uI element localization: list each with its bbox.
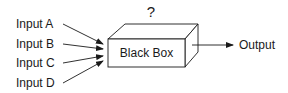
- input-a-label: Input A: [16, 17, 53, 31]
- input-c-arrow: [63, 56, 103, 63]
- input-b-label: Input B: [16, 37, 54, 51]
- input-b-arrow: [63, 44, 103, 49]
- input-a-arrow: [63, 24, 103, 44]
- black-box-diagram: Input A Input B Input C Input D Black Bo…: [0, 0, 288, 93]
- box-label: Black Box: [120, 46, 173, 60]
- input-d-arrow: [63, 61, 103, 83]
- box-top-face: [108, 24, 198, 39]
- input-c-label: Input C: [16, 56, 55, 70]
- input-d-label: Input D: [16, 76, 55, 90]
- question-mark: ?: [147, 3, 155, 20]
- output-label: Output: [239, 38, 276, 52]
